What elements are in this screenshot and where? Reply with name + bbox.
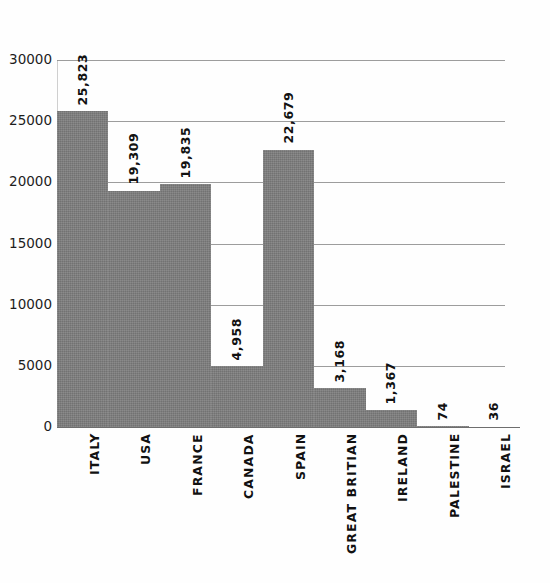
bar[interactable]: [314, 388, 365, 427]
y-axis: 300002500020000150001000050000: [0, 0, 52, 583]
bar[interactable]: [366, 410, 417, 427]
y-tick-label: 10000: [4, 298, 52, 312]
y-tick-label: 15000: [4, 237, 52, 251]
x-category-label: SPAIN: [295, 433, 308, 480]
bar-value-label: 74: [436, 402, 449, 421]
bar[interactable]: [160, 184, 211, 427]
bar-value-label: 19,835: [179, 127, 192, 179]
x-category-label: PALESTINE: [449, 433, 462, 518]
bar[interactable]: [211, 366, 262, 427]
x-axis-labels: ITALYUSAFRANCECANADASPAINGREAT BRITIANIR…: [57, 433, 520, 568]
x-axis-line: [57, 427, 520, 428]
y-tick-label: 20000: [4, 176, 52, 190]
x-category-label: IRELAND: [397, 433, 410, 502]
y-tick-label: 25000: [4, 114, 52, 128]
x-category-label: CANADA: [243, 433, 256, 499]
bar-chart: 300002500020000150001000050000 25,82319,…: [0, 0, 550, 583]
bar-value-label: 4,958: [231, 318, 244, 361]
bar-value-label: 36: [488, 402, 501, 421]
bars-layer: 25,82319,30919,8354,95822,6793,1681,3677…: [57, 60, 520, 427]
y-tick-label: 30000: [4, 53, 52, 67]
x-category-label: USA: [140, 433, 153, 465]
x-category-label: ITALY: [89, 433, 102, 475]
bar[interactable]: [57, 111, 108, 427]
bar-value-label: 19,309: [128, 133, 141, 185]
bar[interactable]: [263, 150, 314, 427]
bar-value-label: 25,823: [76, 53, 89, 105]
bar-value-label: 22,679: [282, 92, 295, 144]
y-tick-label: 5000: [4, 359, 52, 373]
bar[interactable]: [108, 191, 159, 427]
x-category-label: FRANCE: [192, 433, 205, 496]
bar-value-label: 3,168: [333, 340, 346, 383]
y-tick-label: 0: [4, 420, 52, 434]
x-category-label: ISRAEL: [500, 433, 513, 489]
bar-value-label: 1,367: [385, 362, 398, 405]
x-category-label: GREAT BRITIAN: [346, 433, 359, 554]
